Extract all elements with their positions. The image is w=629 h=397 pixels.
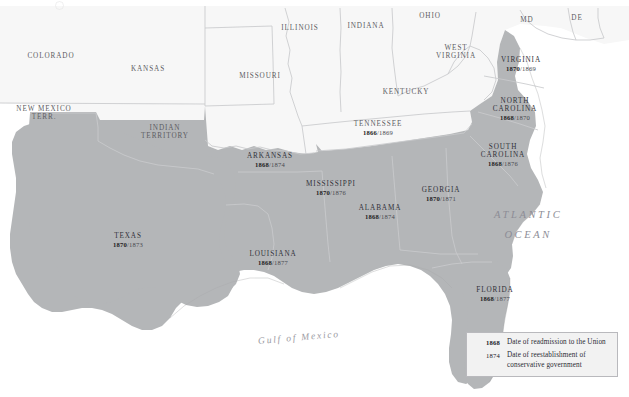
historical-map: ATLANTIC OCEAN Gulf of Mexico COLORADO K…	[0, 0, 629, 397]
kansas-fill	[205, 26, 274, 106]
legend-year-1874: 1874	[474, 351, 500, 359]
legend-row-conservative: 1874 Date of reestablishment of conserva…	[474, 351, 610, 370]
legend-row-readmission: 1868 Date of readmission to the Union	[474, 338, 610, 347]
map-legend: 1868 Date of readmission to the Union 18…	[466, 332, 618, 377]
legend-year-1868: 1868	[474, 338, 500, 346]
colorado-fill	[0, 6, 205, 103]
legend-text-readmission: Date of readmission to the Union	[507, 338, 606, 347]
legend-text-conservative: Date of reestablishment of conservative …	[507, 351, 610, 370]
page-speck	[55, 1, 64, 10]
